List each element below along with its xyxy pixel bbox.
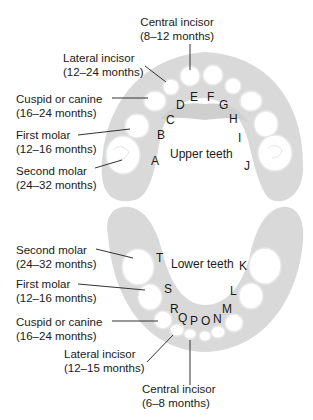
callout-name: Second molar xyxy=(16,243,97,257)
lower-letter-q: Q xyxy=(178,311,187,325)
upper-letter-i: I xyxy=(238,131,241,145)
tooth-O xyxy=(199,331,211,341)
lower-letter-o: O xyxy=(201,314,210,328)
tooth-Q xyxy=(170,324,184,336)
callout-upper-lateral-incisor: Lateral incisor (12–24 months) xyxy=(63,51,144,79)
tooth-J xyxy=(258,135,292,171)
upper-letter-h: H xyxy=(229,112,238,126)
lower-letter-m: M xyxy=(222,302,232,316)
callout-name: Lateral incisor xyxy=(64,347,145,361)
lower-teeth-label: Lower teeth xyxy=(171,257,234,271)
upper-letter-a: A xyxy=(151,154,159,168)
callout-age: (12–16 months) xyxy=(16,291,97,305)
upper-letter-j: J xyxy=(244,159,250,173)
tooth-H xyxy=(240,91,262,111)
tooth-L xyxy=(239,283,263,309)
tooth-S xyxy=(138,284,162,310)
callout-lower-first-molar: First molar (12–16 months) xyxy=(16,277,97,305)
callout-name: Cuspid or canine xyxy=(16,315,102,329)
tooth-I xyxy=(254,111,278,137)
callout-name: Lateral incisor xyxy=(63,51,144,65)
lower-letter-p: P xyxy=(190,314,198,328)
callout-lower-second-molar: Second molar (24–32 months) xyxy=(16,243,97,271)
tooth-C xyxy=(144,91,166,111)
upper-letter-d: D xyxy=(176,98,185,112)
tooth-T xyxy=(122,249,154,285)
tooth-M xyxy=(225,314,243,332)
tooth-B xyxy=(125,114,149,138)
callout-age: (12–15 months) xyxy=(64,361,145,375)
callout-name: Central incisor xyxy=(142,382,216,396)
callout-lower-lateral-incisor: Lateral incisor (12–15 months) xyxy=(64,347,145,375)
callout-upper-canine: Cuspid or canine (16–24 months) xyxy=(16,92,102,120)
callout-age: (24–32 months) xyxy=(16,178,97,192)
tooth-G xyxy=(225,78,241,94)
callout-upper-first-molar: First molar (12–16 months) xyxy=(16,128,97,156)
tooth-F xyxy=(203,65,223,85)
dental-eruption-diagram: A B C D E F G H I J Upper teeth T S R Q … xyxy=(0,0,313,420)
upper-letter-c: C xyxy=(166,113,175,127)
callout-age: (8–12 months) xyxy=(140,29,214,43)
callout-age: (16–24 months) xyxy=(16,106,102,120)
tooth-N xyxy=(211,326,225,338)
callout-name: Cuspid or canine xyxy=(16,92,102,106)
callout-upper-central-incisor: Central incisor (8–12 months) xyxy=(140,15,214,43)
callout-lower-central-incisor: Central incisor (6–8 months) xyxy=(142,382,216,410)
callout-age: (24–32 months) xyxy=(16,257,97,271)
lower-letter-k: K xyxy=(239,259,247,273)
upper-letter-f: F xyxy=(207,90,214,104)
callout-age: (16–24 months) xyxy=(16,329,102,343)
callout-name: Second molar xyxy=(16,164,97,178)
callout-age: (12–24 months) xyxy=(63,65,144,79)
upper-letter-b: B xyxy=(157,128,165,142)
upper-teeth-label: Upper teeth xyxy=(170,147,233,161)
lower-letter-n: N xyxy=(213,312,222,326)
callout-name: First molar xyxy=(16,277,97,291)
upper-letter-g: G xyxy=(219,98,228,112)
upper-letter-e: E xyxy=(190,90,198,104)
lower-letter-t: T xyxy=(156,251,164,265)
callout-lower-canine: Cuspid or canine (16–24 months) xyxy=(16,315,102,343)
callout-name: Central incisor xyxy=(140,15,214,29)
callout-age: (12–16 months) xyxy=(16,142,97,156)
lower-letter-l: L xyxy=(230,284,237,298)
callout-age: (6–8 months) xyxy=(142,396,216,410)
callout-name: First molar xyxy=(16,128,97,142)
tooth-A xyxy=(106,136,140,174)
lower-letter-s: S xyxy=(164,282,172,296)
tooth-P xyxy=(184,329,196,339)
tooth-K xyxy=(249,248,281,284)
callout-upper-second-molar: Second molar (24–32 months) xyxy=(16,164,97,192)
